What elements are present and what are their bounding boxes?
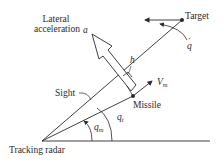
- lateral-acceleration-label: Lateral acceleration: [34, 14, 78, 34]
- q-dot-dot: ·: [188, 34, 190, 44]
- q-dot-symbol: · q: [187, 41, 192, 51]
- lateral-acceleration-line2: acceleration: [34, 24, 78, 34]
- lateral-acceleration-line1: Lateral: [34, 14, 78, 24]
- missile-label: Missile: [133, 100, 161, 110]
- q-dot-rotation-arc: [160, 24, 187, 40]
- q-t-label: qt: [117, 112, 124, 123]
- velocity-symbol: V: [157, 77, 163, 87]
- q-m-subscript: m: [99, 126, 104, 133]
- velocity-subscript: m: [163, 81, 168, 88]
- q-m-angle-arc: [84, 121, 92, 141]
- velocity-label: Vm: [157, 77, 168, 88]
- sight-leader: [79, 93, 91, 100]
- sight-label: Sight: [55, 88, 75, 98]
- accel-symbol: a: [83, 25, 88, 35]
- target-label: Target: [185, 11, 209, 21]
- tracking-radar-label: Tracking radar: [9, 145, 65, 155]
- q-t-subscript: t: [122, 116, 124, 123]
- velocity-arrow: [133, 81, 152, 96]
- q-m-label: qm: [94, 122, 103, 133]
- h-symbol: h: [130, 55, 135, 65]
